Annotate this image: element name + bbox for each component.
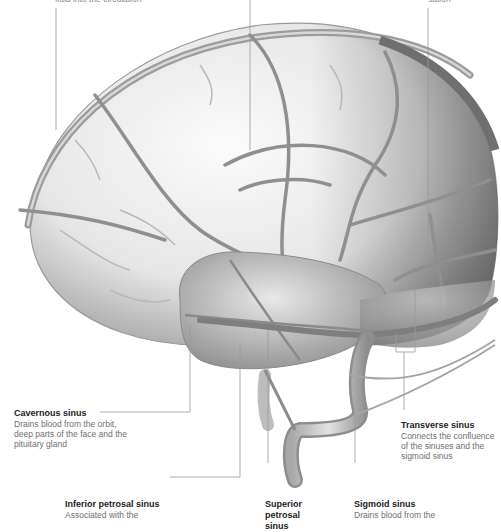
top-right-caption-cropped: sation [428,0,451,4]
label-description: Associated with the [65,510,175,520]
label-description: Drains blood from the [354,510,464,520]
label-superior-petrosal-sinus: Superior petrosal sinus [265,499,325,532]
label-cavernous-sinus: Cavernous sinus Drains blood from the or… [14,408,134,449]
top-left-caption-cropped: fluid into the circulation [55,0,141,4]
label-title: Inferior petrosal sinus [65,499,175,510]
label-title: Transverse sinus [401,420,501,431]
label-title: Superior petrosal sinus [265,499,325,532]
label-transverse-sinus: Transverse sinus Connects the confluence… [401,420,501,461]
label-description: Drains blood from the orbit, deep parts … [14,419,134,449]
top-left-caption-text: fluid into the circulation [55,0,141,4]
label-title: Cavernous sinus [14,408,134,419]
top-right-caption-text: sation [428,0,451,4]
label-title: Sigmoid sinus [354,499,464,510]
label-sigmoid-sinus: Sigmoid sinus Drains blood from the [354,499,464,520]
label-inferior-petrosal-sinus: Inferior petrosal sinus Associated with … [65,499,175,520]
label-description: Connects the confluence of the sinuses a… [401,431,501,461]
